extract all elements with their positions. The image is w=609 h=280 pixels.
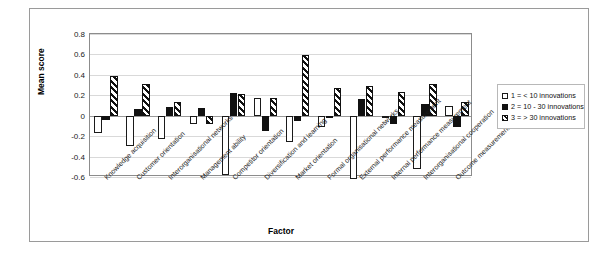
y-tick-label: 0: [81, 111, 85, 120]
gridline: [90, 177, 471, 178]
y-tick-label: 0.2: [74, 91, 85, 100]
legend-swatch-series2-icon: [502, 104, 508, 110]
bar-chart-figure: Mean score Factor 0.80.60.40.20-0.2-0.4-…: [0, 0, 609, 280]
legend-swatch-series3-icon: [502, 115, 508, 121]
bar-series3: [110, 76, 117, 116]
legend-item-3: 3 = > 30 innovations: [502, 113, 581, 122]
y-tick-label: -0.6: [71, 173, 85, 182]
legend-item-2: 2 = 10 - 30 innovations: [502, 102, 581, 111]
bar-series3: [334, 88, 341, 116]
bar-series2: [262, 116, 269, 131]
y-tick-label: 0.6: [74, 50, 85, 59]
legend-label-series3: 3 = > 30 innovations: [511, 113, 576, 122]
bar-series2: [230, 93, 237, 115]
bar-series1: [190, 116, 197, 124]
bar-series3: [366, 86, 373, 116]
x-axis-title: Factor: [268, 226, 294, 236]
bar-series1: [94, 116, 101, 133]
bar-series1: [286, 116, 293, 143]
bar-series1: [254, 98, 261, 115]
y-axis-title: Mean score: [36, 48, 46, 95]
legend-swatch-series1-icon: [502, 93, 508, 99]
legend-item-1: 1 = < 10 innovations: [502, 91, 581, 100]
y-tick-label: -0.4: [71, 152, 85, 161]
bar-series2: [326, 116, 333, 118]
bar-series3: [206, 116, 213, 124]
bar-group: [90, 34, 122, 175]
y-tick-label: -0.2: [71, 132, 85, 141]
bar-series1: [126, 116, 133, 147]
bar-series2: [358, 99, 365, 115]
bar-series3: [302, 55, 309, 115]
bar-series3: [174, 102, 181, 115]
bar-series2: [166, 107, 173, 116]
bar-series1: [158, 116, 165, 139]
bar-series2: [294, 116, 301, 121]
legend-label-series2: 2 = 10 - 30 innovations: [511, 102, 584, 111]
legend-label-series1: 1 = < 10 innovations: [511, 91, 576, 100]
y-tick-label: 0.8: [74, 30, 85, 39]
bar-series3: [270, 98, 277, 115]
y-tick-label: 0.4: [74, 70, 85, 79]
bar-series2: [198, 108, 205, 116]
bar-series3: [142, 84, 149, 116]
bar-series2: [134, 109, 141, 116]
bar-series2: [102, 116, 109, 120]
legend: 1 = < 10 innovations 2 = 10 - 30 innovat…: [497, 84, 585, 129]
bar-series3: [238, 94, 245, 115]
